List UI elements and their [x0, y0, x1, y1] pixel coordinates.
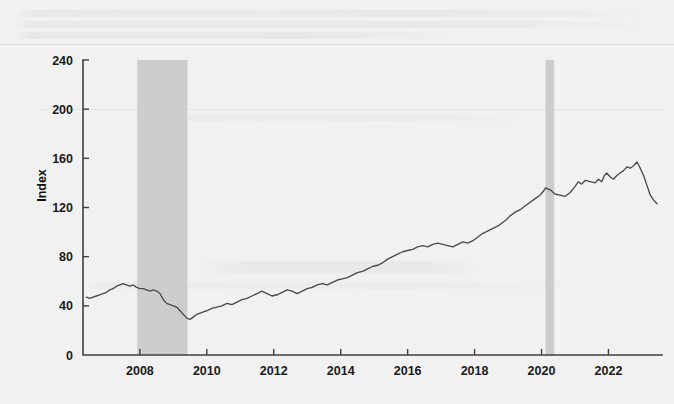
x-tick-label: 2020 [528, 364, 556, 378]
y-tick-label: 240 [52, 54, 73, 68]
y-tick-label: 0 [66, 349, 73, 363]
y-tick-label: 160 [52, 152, 73, 166]
x-tick-label: 2018 [461, 364, 489, 378]
y-tick-label: 40 [59, 299, 73, 313]
x-tick-label: 2014 [327, 364, 355, 378]
x-tick-label: 2010 [193, 364, 221, 378]
chart-figure: 04080120160200240 2008201020122014201620… [0, 0, 674, 404]
y-tick-label: 200 [52, 103, 73, 117]
index-line-chart: 04080120160200240 2008201020122014201620… [0, 0, 674, 404]
x-tick-label: 2016 [394, 364, 422, 378]
y-axis-title: Index [35, 169, 49, 202]
y-tick-label: 120 [52, 201, 73, 215]
recession-band-covid-recession [546, 60, 555, 355]
x-tick-label: 2022 [595, 364, 623, 378]
plot-background [0, 0, 674, 404]
figure-page: 04080120160200240 2008201020122014201620… [0, 0, 674, 404]
x-tick-label: 2008 [126, 364, 154, 378]
x-tick-label: 2012 [260, 364, 288, 378]
y-tick-label: 80 [59, 250, 73, 264]
